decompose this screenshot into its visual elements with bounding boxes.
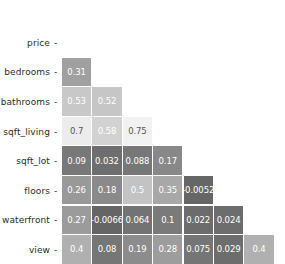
cell-value: 0.17 [159,156,178,166]
heatmap-cell: 0.029 [214,235,243,263]
cell-value: 0.08 [98,244,117,254]
cell-value: 0.088 [125,156,149,166]
heatmap-cell: -0.0066 [92,206,121,234]
heatmap-cell: -0.0052 [184,176,213,204]
heatmap-cell: 0.024 [214,206,243,234]
heatmap-cell: 0.35 [153,176,182,204]
tick-mark-icon: - [54,127,57,137]
heatmap-cell: 0.5 [123,176,152,204]
cell-value: 0.27 [67,215,86,225]
cell-value: 0.075 [186,244,210,254]
tick-mark-icon: - [54,67,57,77]
tick-mark-icon: - [54,38,57,48]
cell-value: 0.58 [98,126,117,136]
heatmap-cell: 0.28 [153,235,182,263]
tick-mark-icon: - [54,186,57,196]
heatmap-cell: 0.26 [62,176,91,204]
heatmap-cell: 0.53 [62,87,91,115]
cell-value: 0.1 [161,215,174,225]
cell-value: -0.0052 [184,185,213,195]
heatmap-cell: 0.52 [92,87,121,115]
cell-value: 0.064 [125,215,149,225]
heatmap-cell: 0.1 [153,206,182,234]
cell-value: 0.31 [67,67,86,77]
heatmap-cell: 0.088 [123,146,152,174]
heatmap-cell: 0.09 [62,146,91,174]
row-label-sqft-lot: sqft_lot [0,156,50,166]
row-label-bathrooms: bathrooms [0,97,50,107]
cell-value: 0.28 [159,244,178,254]
heatmap-cell: 0.032 [92,146,121,174]
heatmap-cell: 0.18 [92,176,121,204]
heatmap-cell: 0.75 [123,117,152,145]
heatmap-cell: 0.022 [184,206,213,234]
heatmap-cell: 0.27 [62,206,91,234]
cell-value: 0.52 [98,96,117,106]
cell-value: 0.4 [70,244,83,254]
row-label-floors: floors [0,186,50,196]
cell-value: 0.26 [67,185,86,195]
tick-mark-icon: - [54,97,57,107]
tick-mark-icon: - [54,156,57,166]
cell-value: 0.09 [67,156,86,166]
cell-value: 0.53 [67,96,86,106]
cell-value: -0.0066 [92,215,121,225]
tick-mark-icon: - [54,215,57,225]
cell-value: 0.7 [70,126,83,136]
cell-value: 0.19 [128,244,147,254]
cell-value: 0.4 [252,244,265,254]
cell-value: 0.5 [131,185,144,195]
heatmap-cell: 0.19 [123,235,152,263]
heatmap-cell: 0.7 [62,117,91,145]
heatmap-cell: 0.4 [244,235,273,263]
row-label-bedrooms: bedrooms [0,67,50,77]
row-label-sqft-living: sqft_living [0,127,50,137]
heatmap-cell: 0.075 [184,235,213,263]
cell-value: 0.029 [217,244,241,254]
cell-value: 0.18 [98,185,117,195]
heatmap-cell: 0.08 [92,235,121,263]
row-label-waterfront: waterfront [0,215,50,225]
row-label-view: view [0,245,50,255]
heatmap-cell: 0.064 [123,206,152,234]
heatmap-cell: 0.31 [62,58,91,86]
heatmap-cell: 0.17 [153,146,182,174]
cell-value: 0.024 [217,215,241,225]
heatmap-cell: 0.58 [92,117,121,145]
tick-mark-icon: - [54,245,57,255]
cell-value: 0.75 [128,126,147,136]
row-label-price: price [0,38,50,48]
cell-value: 0.022 [186,215,210,225]
heatmap-cell: 0.4 [62,235,91,263]
cell-value: 0.032 [95,156,119,166]
cell-value: 0.35 [159,185,178,195]
